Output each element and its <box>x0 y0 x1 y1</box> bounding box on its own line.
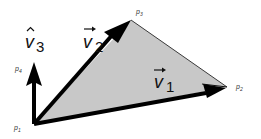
svg-text:4: 4 <box>19 68 22 74</box>
label-p4: p 4 <box>14 65 22 74</box>
label-p1: p 1 <box>13 124 21 133</box>
label-v3: v 3 <box>25 28 44 56</box>
svg-text:1: 1 <box>18 127 21 133</box>
svg-text:1: 1 <box>166 78 174 95</box>
svg-text:3: 3 <box>140 11 143 17</box>
vector-diagram: v 1 v 2 v 3 p 1 p 2 p 3 p 4 <box>0 0 261 139</box>
label-p3: p 3 <box>135 8 143 17</box>
svg-text:v: v <box>25 32 35 52</box>
svg-text:v: v <box>83 32 93 52</box>
svg-text:2: 2 <box>239 86 243 92</box>
label-p2: p 2 <box>235 83 243 92</box>
hat-v3-icon <box>27 28 34 32</box>
svg-text:v: v <box>154 72 164 92</box>
svg-text:3: 3 <box>36 38 44 55</box>
label-v2: v 2 <box>83 27 103 56</box>
svg-text:2: 2 <box>95 38 103 55</box>
